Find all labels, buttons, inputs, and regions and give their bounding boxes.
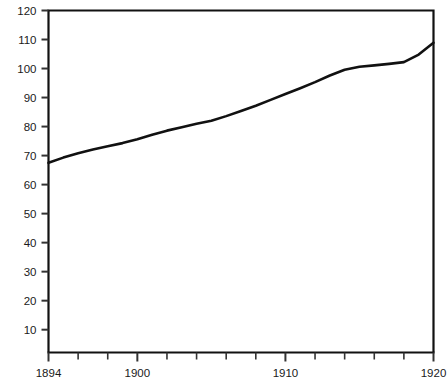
x-tick-label: 1920 bbox=[421, 367, 447, 379]
y-tick-label: 60 bbox=[24, 179, 37, 191]
y-tick-label: 90 bbox=[24, 92, 37, 104]
y-tick-label: 110 bbox=[18, 34, 36, 46]
y-axis-tick-labels: 102030405060708090100110120 bbox=[17, 5, 36, 336]
plot-frame-path bbox=[49, 11, 434, 353]
y-tick-label: 50 bbox=[24, 208, 37, 220]
y-tick-label: 100 bbox=[17, 63, 36, 75]
x-axis-ticks bbox=[49, 353, 434, 362]
series-line-1 bbox=[49, 43, 434, 163]
line-chart: 1894190019101920 10203040506070809010011… bbox=[0, 0, 447, 384]
y-tick-label: 120 bbox=[17, 5, 36, 17]
x-tick-label: 1900 bbox=[125, 367, 151, 379]
y-tick-label: 80 bbox=[24, 121, 37, 133]
y-tick-label: 70 bbox=[24, 150, 37, 162]
plot-frame bbox=[49, 11, 434, 353]
y-tick-label: 40 bbox=[24, 237, 37, 249]
y-tick-label: 20 bbox=[24, 295, 37, 307]
x-axis-tick-labels: 1894190019101920 bbox=[36, 367, 447, 379]
chart-canvas: 1894190019101920 10203040506070809010011… bbox=[0, 0, 447, 384]
x-tick-label: 1894 bbox=[36, 367, 62, 379]
x-tick-label: 1910 bbox=[273, 367, 299, 379]
y-tick-label: 10 bbox=[24, 324, 37, 336]
y-axis: 102030405060708090100110120 bbox=[17, 5, 48, 336]
data-series-group bbox=[49, 43, 434, 163]
x-axis: 1894190019101920 bbox=[36, 353, 447, 379]
y-tick-label: 30 bbox=[24, 266, 37, 278]
